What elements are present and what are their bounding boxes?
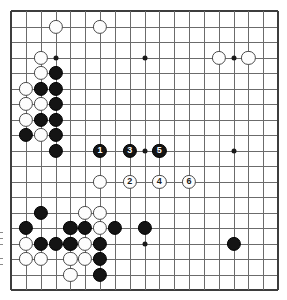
stone-white[interactable]: [34, 50, 48, 64]
move-stone-4[interactable]: 4: [152, 174, 166, 188]
stone-black[interactable]: [19, 221, 33, 235]
stone-white[interactable]: [63, 252, 77, 266]
go-diagram: 135246: [0, 0, 287, 300]
move-number-label: 4: [157, 177, 162, 186]
stone-white[interactable]: [34, 97, 48, 111]
stone-white[interactable]: [241, 50, 255, 64]
stone-black[interactable]: [48, 128, 62, 142]
stone-black[interactable]: [108, 221, 122, 235]
stone-white[interactable]: [93, 221, 107, 235]
grid-line-vertical: [204, 11, 205, 290]
stone-black[interactable]: [93, 252, 107, 266]
move-number-label: 5: [157, 146, 162, 155]
stone-white[interactable]: [212, 50, 226, 64]
stone-black[interactable]: [48, 81, 62, 95]
stone-black[interactable]: [63, 221, 77, 235]
stone-black[interactable]: [63, 236, 77, 250]
move-stone-6[interactable]: 6: [182, 174, 196, 188]
stone-white[interactable]: [19, 81, 33, 95]
move-stone-2[interactable]: 2: [123, 174, 137, 188]
stone-white[interactable]: [93, 205, 107, 219]
stone-black[interactable]: [34, 236, 48, 250]
stone-black[interactable]: [48, 143, 62, 157]
move-number-label: 2: [127, 177, 132, 186]
stone-white[interactable]: [34, 252, 48, 266]
stone-white[interactable]: [48, 19, 62, 33]
stone-black[interactable]: [34, 205, 48, 219]
move-stone-5[interactable]: 5: [152, 143, 166, 157]
move-number-label: 6: [186, 177, 191, 186]
grid-line-vertical: [10, 11, 12, 290]
hoshi-star-point: [142, 148, 147, 153]
stone-black[interactable]: [19, 128, 33, 142]
stone-black[interactable]: [93, 236, 107, 250]
stone-black[interactable]: [48, 112, 62, 126]
stone-white[interactable]: [34, 128, 48, 142]
stone-black[interactable]: [137, 221, 151, 235]
grid-line-vertical: [263, 11, 264, 290]
stone-white[interactable]: [19, 97, 33, 111]
hoshi-star-point: [53, 55, 58, 60]
hoshi-star-point: [142, 241, 147, 246]
hoshi-star-point: [231, 55, 236, 60]
move-number-label: 1: [97, 146, 102, 155]
stone-white[interactable]: [78, 236, 92, 250]
grid-line-vertical: [115, 11, 116, 290]
stone-white[interactable]: [19, 252, 33, 266]
move-number-label: 3: [127, 146, 132, 155]
stone-white[interactable]: [93, 19, 107, 33]
move-stone-3[interactable]: 3: [123, 143, 137, 157]
stone-white[interactable]: [78, 252, 92, 266]
grid-line-vertical: [189, 11, 190, 290]
stone-black[interactable]: [93, 267, 107, 281]
grid-line-vertical: [174, 11, 175, 290]
grid-line-vertical: [277, 11, 279, 290]
stone-black[interactable]: [78, 221, 92, 235]
stone-black[interactable]: [48, 97, 62, 111]
stone-black[interactable]: [48, 236, 62, 250]
hoshi-star-point: [142, 55, 147, 60]
stone-white[interactable]: [19, 236, 33, 250]
hoshi-star-point: [231, 148, 236, 153]
stone-white[interactable]: [34, 66, 48, 80]
stone-black[interactable]: [48, 66, 62, 80]
stone-black[interactable]: [226, 236, 240, 250]
page-edge-marks: [0, 232, 3, 266]
stone-black[interactable]: [34, 112, 48, 126]
stone-white[interactable]: [78, 205, 92, 219]
stone-white[interactable]: [63, 267, 77, 281]
stone-white[interactable]: [93, 174, 107, 188]
go-board[interactable]: 135246: [0, 0, 287, 300]
stone-white[interactable]: [19, 112, 33, 126]
stone-black[interactable]: [34, 81, 48, 95]
move-stone-1[interactable]: 1: [93, 143, 107, 157]
